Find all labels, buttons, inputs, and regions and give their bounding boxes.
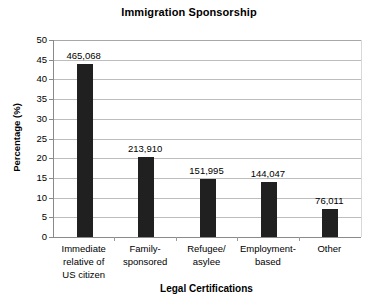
y-tick-label: 25 [17, 133, 47, 144]
category-label: Family- sponsored [114, 242, 175, 268]
category-label: Refugee/ asylee [176, 242, 237, 268]
y-tick-mark [49, 99, 53, 100]
y-tick-mark [49, 198, 53, 199]
bar[interactable] [77, 64, 93, 237]
y-tick-label: 20 [17, 152, 47, 163]
bar[interactable] [322, 209, 338, 237]
x-tick-mark [237, 237, 238, 241]
plot-right-edge [361, 40, 362, 237]
y-tick-label: 15 [17, 172, 47, 183]
gridline [54, 139, 361, 140]
bar[interactable] [138, 157, 154, 237]
bar-value-label: 144,047 [228, 168, 308, 179]
y-tick-label: 5 [17, 211, 47, 222]
x-tick-mark [176, 237, 177, 241]
bar[interactable] [200, 179, 216, 237]
y-tick-label: 0 [17, 231, 47, 242]
y-tick-label: 45 [17, 54, 47, 65]
bar-value-label: 76,011 [289, 195, 369, 206]
gridline [54, 119, 361, 120]
bar-value-label: 465,068 [44, 50, 124, 61]
x-tick-mark [299, 237, 300, 241]
y-tick-mark [49, 158, 53, 159]
gridline [54, 99, 361, 100]
y-tick-label: 50 [17, 34, 47, 45]
gridline [54, 40, 361, 41]
y-tick-mark [49, 40, 53, 41]
y-tick-label: 30 [17, 113, 47, 124]
y-tick-label: 40 [17, 73, 47, 84]
y-tick-label: 35 [17, 93, 47, 104]
gridline [54, 79, 361, 80]
gridline [54, 158, 361, 159]
chart-container: Immigration Sponsorship Percentage (%) 5… [0, 0, 378, 302]
chart-title: Immigration Sponsorship [0, 6, 378, 18]
category-label: Immediate relative of US citizen [53, 242, 114, 281]
y-tick-mark [49, 237, 53, 238]
category-label: Employment- based [237, 242, 298, 268]
y-tick-label: 10 [17, 192, 47, 203]
y-tick-mark [49, 139, 53, 140]
y-tick-mark [49, 178, 53, 179]
x-axis-title: Legal Certifications [53, 283, 360, 294]
y-tick-mark [49, 217, 53, 218]
y-tick-mark [49, 119, 53, 120]
y-tick-mark [49, 79, 53, 80]
bar-value-label: 213,910 [105, 143, 185, 154]
plot-area [53, 40, 361, 238]
bar[interactable] [261, 182, 277, 237]
category-label: Other [299, 242, 360, 255]
x-tick-mark [114, 237, 115, 241]
